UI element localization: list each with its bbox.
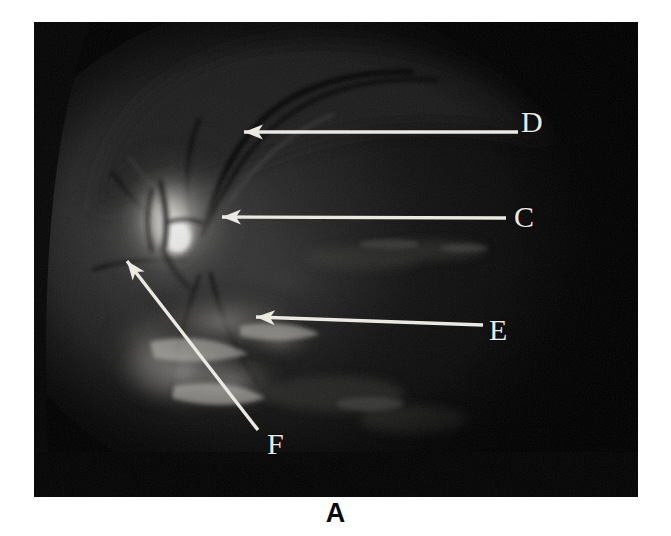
annotation-label-d: D xyxy=(521,107,543,137)
fundus-image xyxy=(34,22,638,497)
annotation-label-c: C xyxy=(514,202,534,232)
panel-letter: A xyxy=(0,498,671,528)
figure-panel: D C E F A xyxy=(0,0,671,536)
annotation-label-e: E xyxy=(489,315,507,345)
fundus-render xyxy=(34,22,638,497)
annotation-label-f: F xyxy=(267,429,284,459)
